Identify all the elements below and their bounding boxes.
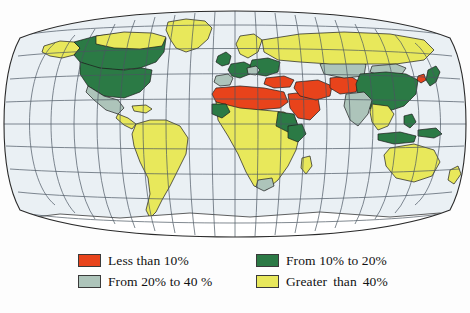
- map-legend: Less than 10% From 10% to 20% From 20% t…: [78, 250, 418, 296]
- legend-item-greater-than-40: Greater than 40%: [256, 275, 418, 289]
- region-iberia: [214, 74, 233, 86]
- map-container: [0, 8, 470, 240]
- legend-item-from-20-to-40: From 20% to 40 %: [78, 275, 256, 289]
- world-map-svg: [0, 8, 470, 240]
- legend-swatch-from-10-to-20: [256, 254, 279, 267]
- legend-item-from-10-to-20: From 10% to 20%: [256, 254, 418, 268]
- legend-swatch-from-20-to-40: [78, 275, 101, 288]
- legend-swatch-greater-than-40: [256, 275, 279, 288]
- legend-label-from-10-to-20: From 10% to 20%: [286, 254, 387, 268]
- legend-swatch-less-than-10: [78, 254, 101, 267]
- ocean-layer: [0, 8, 470, 240]
- legend-label-greater-than-40: Greater than 40%: [286, 275, 388, 289]
- legend-label-from-20-to-40: From 20% to 40 %: [108, 275, 212, 289]
- legend-label-less-than-10: Less than 10%: [108, 254, 189, 268]
- world-map-figure: Less than 10% From 10% to 20% From 20% t…: [0, 0, 470, 313]
- legend-item-less-than-10: Less than 10%: [78, 254, 256, 268]
